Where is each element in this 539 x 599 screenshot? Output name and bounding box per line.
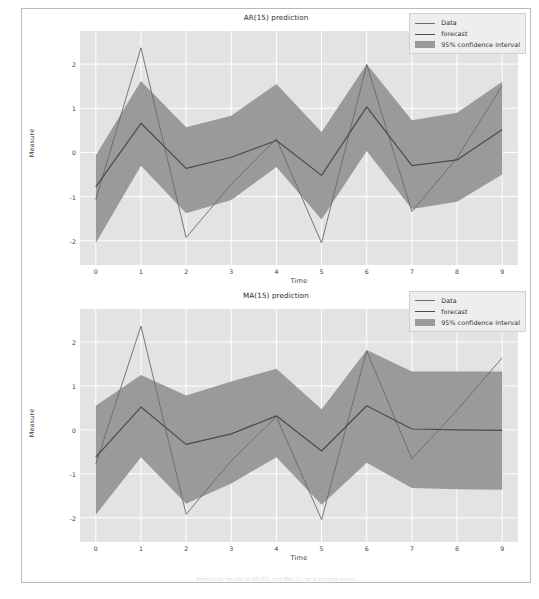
y-axis-tick-label: 2 (72, 61, 76, 68)
x-axis-tick-label: 0 (94, 545, 98, 552)
legend-label-data: Data (441, 19, 456, 26)
x-axis-tick-label: 6 (365, 268, 369, 275)
legend-row-data[interactable]: Data (414, 295, 520, 306)
figure-frame: AR(15) prediction Measure -2-10120123456… (21, 8, 531, 583)
x-axis-tick-label: 9 (500, 268, 504, 275)
x-axis-tick-label: 2 (184, 268, 188, 275)
x-axis-tick-label: 7 (410, 545, 414, 552)
y-axis-tick-label: 1 (72, 382, 76, 389)
x-axis-tick-label: 8 (455, 268, 459, 275)
x-axis-label: Time (291, 277, 308, 285)
y-axis-tick-label: 2 (72, 338, 76, 345)
legend-line-icon-forecast (414, 307, 436, 316)
legend-row-data[interactable]: Data (414, 17, 520, 28)
confidence-interval-band (96, 350, 502, 515)
x-axis-tick-label: 4 (274, 545, 278, 552)
plot-svg-ma15 (80, 309, 518, 542)
legend-patch-icon-confidence (414, 40, 436, 49)
x-axis-tick-label: 3 (229, 268, 233, 275)
plot-area-ma15: -2-10120123456789Time (80, 309, 518, 542)
legend-label-forecast: forecast (441, 30, 467, 37)
x-axis-tick-label: 4 (274, 268, 278, 275)
legend-label-forecast: forecast (441, 308, 467, 315)
x-axis-tick-label: 8 (455, 545, 459, 552)
y-axis-label-ma15: Measure (28, 409, 36, 438)
y-axis-tick-label: -2 (70, 237, 76, 244)
x-axis-tick-label: 5 (320, 545, 324, 552)
y-axis-tick-label: -2 (70, 514, 76, 521)
y-axis-tick-label: -1 (70, 193, 76, 200)
legend-label-confidence: 95% confidence interval (441, 41, 520, 48)
y-axis-tick-label: 0 (72, 149, 76, 156)
legend-line-icon-forecast (414, 29, 436, 38)
legend-line-icon-data (414, 296, 436, 305)
figure-canvas: AR(15) prediction Measure -2-10120123456… (0, 0, 539, 599)
y-axis-tick-label: 0 (72, 426, 76, 433)
plot-svg-ar15 (80, 31, 518, 265)
x-axis-tick-label: 1 (139, 268, 143, 275)
x-axis-label: Time (291, 554, 308, 562)
x-axis-tick-label: 3 (229, 545, 233, 552)
legend-row-confidence[interactable]: 95% confidence interval (414, 317, 520, 328)
legend-line-icon-data (414, 18, 436, 27)
x-axis-tick-label: 6 (365, 545, 369, 552)
x-axis-tick-label: 7 (410, 268, 414, 275)
y-axis-tick-label: 1 (72, 105, 76, 112)
legend-ma15: Data forecast 95% confidence interval (409, 291, 526, 332)
legend-patch-icon-confidence (414, 318, 436, 327)
plot-area-ar15: -2-10120123456789Time (80, 31, 518, 265)
chart-panel-ar15: AR(15) prediction Measure -2-10120123456… (22, 9, 530, 296)
figure-caption: Prediction results of AR(15) and MA(15) … (22, 576, 530, 582)
legend-row-forecast[interactable]: forecast (414, 28, 520, 39)
y-axis-tick-label: -1 (70, 470, 76, 477)
x-axis-tick-label: 5 (320, 268, 324, 275)
chart-panel-ma15: MA(15) prediction Measure -2-10120123456… (22, 287, 530, 574)
legend-row-confidence[interactable]: 95% confidence interval (414, 39, 520, 50)
x-axis-tick-label: 0 (94, 268, 98, 275)
legend-label-data: Data (441, 297, 456, 304)
legend-row-forecast[interactable]: forecast (414, 306, 520, 317)
x-axis-tick-label: 1 (139, 545, 143, 552)
confidence-interval-band (96, 64, 502, 243)
legend-label-confidence: 95% confidence interval (441, 319, 520, 326)
y-axis-label-ar15: Measure (28, 129, 36, 158)
legend-ar15: Data forecast 95% confidence interval (409, 13, 526, 54)
x-axis-tick-label: 2 (184, 545, 188, 552)
x-axis-tick-label: 9 (500, 545, 504, 552)
